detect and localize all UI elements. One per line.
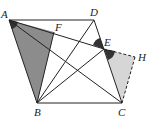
label-h: H — [137, 51, 147, 63]
label-c: C — [118, 106, 126, 118]
label-f: F — [54, 21, 62, 33]
geometry-diagram: A D F E H B C — [0, 0, 152, 128]
label-d: D — [89, 6, 98, 18]
label-a: A — [0, 8, 8, 20]
label-e: E — [103, 36, 111, 48]
label-b: B — [34, 106, 41, 118]
